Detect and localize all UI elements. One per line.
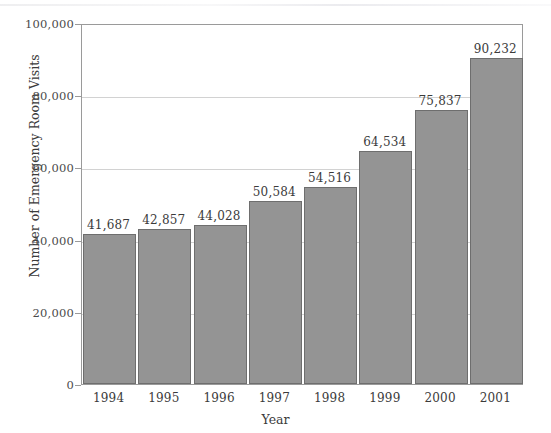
x-tick-label: 1996 (192, 391, 247, 405)
bar (304, 187, 357, 384)
x-axis-title: Year (0, 412, 551, 427)
bar-value-label: 90,232 (463, 42, 528, 56)
y-tick-label-text: 80,000 (8, 89, 74, 103)
x-tick-label: 1994 (81, 391, 136, 405)
y-tick-label-text: 60,000 (8, 161, 74, 175)
x-tick-label: 1998 (302, 391, 357, 405)
x-tick-label: 1999 (357, 391, 412, 405)
bar-value-label: 75,837 (408, 94, 473, 108)
bar-value-label: 64,534 (352, 135, 417, 149)
bar-chart-figure: Number of Emergency Room Visits 020,0004… (0, 0, 551, 433)
bar (470, 58, 523, 384)
bar-value-label: 54,516 (297, 171, 362, 185)
y-tick-label: 80,000 (8, 89, 74, 103)
x-tick-label: 2001 (468, 391, 523, 405)
y-tick-label: 60,000 (8, 161, 74, 175)
y-tick-label-text: 100,000 (8, 17, 74, 31)
y-tick-label: 0 (8, 378, 74, 392)
bar (194, 225, 247, 384)
bar (415, 110, 468, 384)
bar (359, 151, 412, 384)
y-tick-label: 100,000 (8, 17, 74, 31)
bar-value-label: 44,028 (187, 209, 252, 223)
y-tick-label-text: 20,000 (8, 306, 74, 320)
x-tick-label: 1997 (247, 391, 302, 405)
bar-value-label: 50,584 (242, 185, 307, 199)
bar (138, 229, 191, 384)
plot-area (81, 24, 523, 385)
y-tick-label-text: 0 (8, 378, 74, 392)
y-tick-mark (75, 385, 81, 386)
x-tick-label: 2000 (413, 391, 468, 405)
y-tick-label: 20,000 (8, 306, 74, 320)
bar (249, 201, 302, 384)
y-tick-label: 40,000 (8, 234, 74, 248)
x-tick-label: 1995 (136, 391, 191, 405)
bar (83, 234, 136, 384)
y-tick-label-text: 40,000 (8, 234, 74, 248)
